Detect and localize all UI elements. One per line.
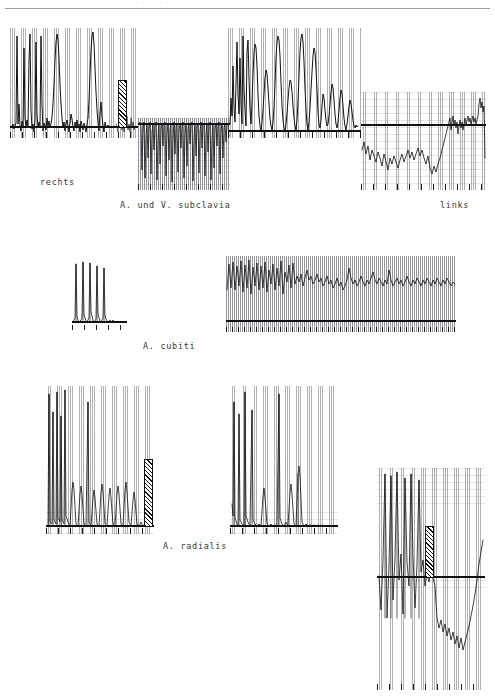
baseline-bar bbox=[230, 525, 338, 527]
trace-svg bbox=[138, 118, 230, 190]
baseline-bar bbox=[138, 123, 230, 125]
caption-row-subclavia: A. und V. subclavia bbox=[120, 200, 231, 210]
chart-subclavia-left-arterial bbox=[228, 28, 361, 138]
time-ticks bbox=[230, 528, 338, 534]
trace-svg bbox=[361, 92, 486, 190]
time-ticks bbox=[228, 132, 361, 138]
time-ticks bbox=[46, 528, 154, 534]
caption-row-radialis: A. radialis bbox=[163, 541, 227, 551]
baseline-bar bbox=[226, 320, 456, 322]
calibration-bar bbox=[118, 80, 127, 128]
chart-radialis-left bbox=[377, 468, 485, 690]
time-ticks bbox=[72, 325, 127, 330]
caption-side-left: links bbox=[440, 200, 469, 210]
chart-subclavia-right-arterial bbox=[10, 28, 138, 138]
calibration-bar bbox=[144, 459, 153, 527]
chart-subclavia-right-venous bbox=[138, 118, 230, 190]
time-ticks bbox=[361, 184, 486, 190]
chart-cubiti-right bbox=[72, 258, 127, 330]
baseline-bar bbox=[72, 321, 127, 323]
trace-svg bbox=[46, 386, 154, 534]
baseline-bar bbox=[361, 124, 486, 126]
trace-svg bbox=[72, 258, 127, 330]
time-ticks bbox=[377, 684, 485, 690]
header-rule bbox=[5, 8, 490, 9]
calibration-bar bbox=[425, 526, 434, 578]
caption-row-cubiti: A. cubiti bbox=[143, 341, 195, 351]
caption-side-right: rechts bbox=[40, 177, 75, 187]
trace-svg bbox=[377, 468, 485, 690]
trace-svg bbox=[228, 28, 361, 138]
running-head-title: — — — — — — — — — — bbox=[130, 0, 187, 5]
time-ticks bbox=[226, 327, 456, 332]
trace-svg bbox=[230, 386, 338, 534]
scanned-page: — — — — — — — — — — bbox=[0, 0, 495, 700]
time-ticks bbox=[10, 132, 138, 138]
chart-radialis-right-2 bbox=[230, 386, 338, 534]
baseline-bar bbox=[46, 525, 154, 527]
chart-cubiti-left bbox=[226, 256, 456, 332]
time-ticks bbox=[138, 184, 230, 190]
chart-radialis-right-1 bbox=[46, 386, 154, 534]
chart-subclavia-left-venous bbox=[361, 92, 486, 190]
